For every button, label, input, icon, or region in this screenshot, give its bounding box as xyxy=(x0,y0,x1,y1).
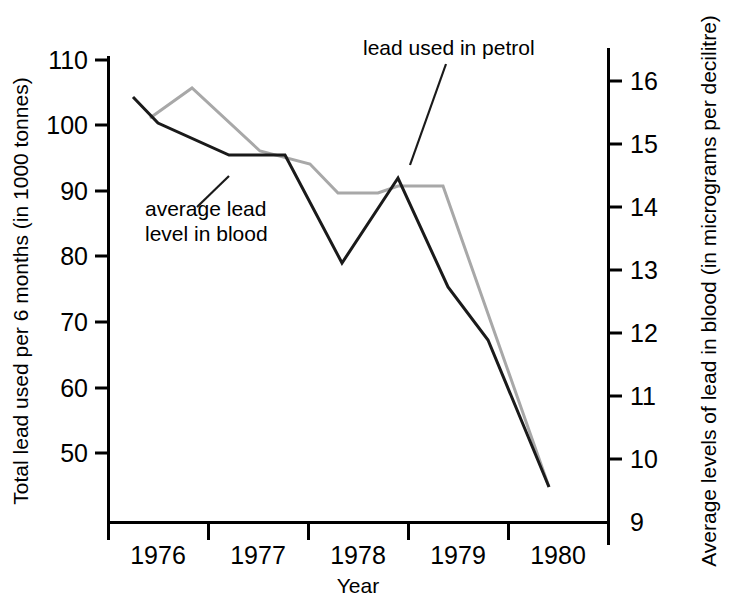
right-tick-label-15: 15 xyxy=(630,130,658,158)
annotation-petrol-text: lead used in petrol xyxy=(363,36,535,59)
x-axis-title: Year xyxy=(337,574,379,597)
lead-line-chart: 110 100 90 80 70 60 50 Total lead used p… xyxy=(0,0,734,600)
left-tick-label-50: 50 xyxy=(60,439,88,467)
right-tick-label-10: 10 xyxy=(630,445,658,473)
chart-background xyxy=(0,0,734,600)
x-tick-label-1979: 1979 xyxy=(430,541,486,569)
left-tick-label-70: 70 xyxy=(60,308,88,336)
left-tick-label-90: 90 xyxy=(60,177,88,205)
right-tick-label-11: 11 xyxy=(630,382,656,410)
x-tick-label-1980: 1980 xyxy=(530,541,586,569)
x-tick-label-1977: 1977 xyxy=(230,541,286,569)
chart-figure: 110 100 90 80 70 60 50 Total lead used p… xyxy=(0,0,734,600)
left-axis-title: Total lead used per 6 months (in 1000 to… xyxy=(9,77,32,504)
right-tick-label-14: 14 xyxy=(630,193,658,221)
right-tick-label-9: 9 xyxy=(630,508,644,536)
right-tick-label-12: 12 xyxy=(630,319,658,347)
right-tick-label-13: 13 xyxy=(630,256,658,284)
annotation-blood-text-line2: level in blood xyxy=(145,222,268,245)
right-axis-title: Average levels of lead in blood (in micr… xyxy=(697,15,720,567)
x-tick-label-1978: 1978 xyxy=(330,541,386,569)
annotation-blood-text-line1: average lead xyxy=(145,197,266,220)
left-tick-label-60: 60 xyxy=(60,374,88,402)
left-tick-label-100: 100 xyxy=(46,111,88,139)
right-tick-label-16: 16 xyxy=(630,67,658,95)
left-tick-label-80: 80 xyxy=(60,242,88,270)
left-tick-label-110: 110 xyxy=(48,46,88,74)
x-tick-label-1976: 1976 xyxy=(130,541,186,569)
